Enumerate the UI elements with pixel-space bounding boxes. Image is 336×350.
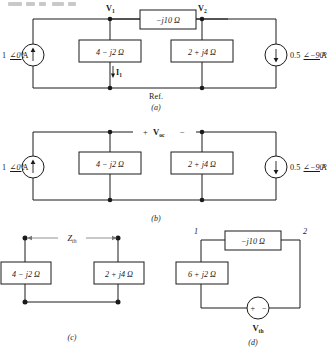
- panel-d-node-label-1: 1: [194, 227, 198, 236]
- panel-d-series-impedance-label: −j10 Ω: [241, 237, 265, 246]
- panel-d-node-label-2: 2: [303, 227, 307, 236]
- panel-b: + Voc − 4 − j2 Ω 2 + j4 Ω 1 ∠0° A 0.5 ∠−…: [2, 127, 328, 223]
- panel-c-terminal-dot-left: [23, 236, 28, 241]
- panel-c-impedance-label-2: 2 + j4 Ω: [105, 270, 133, 279]
- panel-a-node-label-v2: V2: [198, 4, 207, 14]
- panel-a-node-dot-ref-left: [108, 86, 113, 91]
- panel-d-source-label: Vth: [252, 323, 264, 334]
- circuit-figure: −j10 Ω 4 − j2 Ω 2 + j4 Ω 1 ∠0° A 0.5 ∠−9…: [0, 0, 336, 350]
- panel-b-node-dot-top-left: [108, 130, 113, 135]
- panel-b-node-dot-top-right: [200, 130, 205, 135]
- panel-d-impedance-label-1: 6 + j2 Ω: [188, 270, 216, 279]
- panel-c-dimension-label: Zth: [68, 234, 77, 244]
- panel-b-source-right-label: 0.5: [290, 163, 300, 172]
- panel-c-dimension-arrowhead-left: [27, 236, 32, 240]
- panel-b-source-left-unit: A: [23, 163, 29, 172]
- panel-a-source-left-unit: A: [23, 51, 29, 60]
- panel-c-impedance-label-1: 4 − j2 Ω: [12, 270, 40, 279]
- panel-b-source-left-label: 1: [2, 163, 6, 172]
- panel-b-caption: (b): [151, 214, 161, 223]
- panel-d-source-minus-sign: −: [262, 304, 267, 313]
- panel-a-branch-current-label: I1: [116, 68, 122, 78]
- panel-a-node-dot-v2: [200, 17, 205, 22]
- panel-a-reference-label: Ref.: [149, 92, 163, 101]
- panel-b-node-dot-bottom-left: [108, 198, 113, 203]
- top-caption-fragment: [8, 2, 76, 6]
- panel-c: 4 − j2 Ω 2 + j4 Ω Zth (c): [1, 234, 144, 342]
- panel-a-impedance-label-2: 2 + j4 Ω: [188, 48, 216, 57]
- panel-a-impedance-label-1: 4 − j2 Ω: [96, 48, 124, 57]
- panel-a-caption: (a): [151, 103, 161, 112]
- panel-b-impedance-label-1: 4 − j2 Ω: [96, 160, 124, 169]
- panel-b-source-right-unit: A: [321, 163, 327, 172]
- panel-b-voc-plus: +: [143, 128, 148, 137]
- panel-a-node-dot-v1: [108, 17, 113, 22]
- panel-b-voc-label: Voc: [153, 127, 165, 138]
- panel-d-caption: (d): [248, 338, 258, 347]
- panel-d-source-plus-sign: +: [251, 304, 256, 313]
- panel-b-voc-minus: −: [180, 128, 185, 137]
- panel-d: −j10 Ω 6 + j2 Ω + − Vth 1 2 (d): [176, 227, 307, 347]
- panel-a-branch-current-arrowhead: [111, 74, 115, 78]
- panel-a-source-right-label: 0.5: [290, 51, 300, 60]
- panel-b-node-dot-bottom-right: [200, 198, 205, 203]
- panel-b-impedance-label-2: 2 + j4 Ω: [188, 160, 216, 169]
- panel-a-node-label-v1: V1: [106, 4, 115, 14]
- panel-a-source-right-unit: A: [321, 51, 327, 60]
- panel-a-series-impedance-label: −j10 Ω: [156, 16, 180, 25]
- panel-a-source-left-label: 1: [2, 51, 6, 60]
- panel-c-node-dot-bottom-left: [23, 300, 28, 305]
- panel-c-node-dot-bottom-right: [116, 300, 121, 305]
- panel-a: −j10 Ω 4 − j2 Ω 2 + j4 Ω 1 ∠0° A 0.5 ∠−9…: [2, 4, 328, 112]
- panel-a-node-dot-ref-right: [200, 86, 205, 91]
- panel-c-caption: (c): [68, 333, 77, 342]
